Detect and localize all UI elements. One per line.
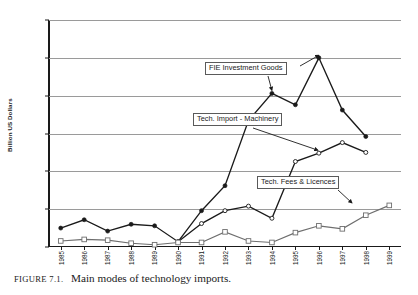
data-point-marker [82,237,87,242]
data-point-marker [246,239,251,244]
data-point-marker [153,224,157,228]
data-point-marker [106,229,110,233]
figure-number: FIGURE 7.1. [14,274,68,284]
x-tick-label: 1986 [81,251,88,265]
data-point-marker [270,91,274,95]
data-point-marker [129,222,133,226]
data-point-marker [340,141,344,145]
data-point-marker [246,204,250,208]
data-point-marker [317,151,321,155]
series-line [178,143,366,242]
data-point-marker [364,150,368,154]
series-line [61,58,366,242]
x-tick-label: 1994 [269,251,276,265]
x-tick-label: 1992 [222,251,229,265]
series-fie-investment-goods [59,56,368,244]
data-point-marker [387,203,392,208]
figure-title: Main modes of technology imports. [71,272,231,284]
y-axis-label: Billion US Dollars [2,60,16,190]
data-point-marker [364,213,369,218]
x-tick-label: 1987 [104,251,111,265]
data-point-marker [129,241,134,246]
x-tick-label: 1996 [316,251,323,265]
data-point-marker [176,240,181,245]
x-tick-label: 1997 [339,251,346,265]
data-point-marker [223,209,227,213]
x-tick-label: 1999 [386,251,393,265]
annotation-tech-fees-licences: Tech. Fees & Licences [257,176,339,189]
data-point-marker [152,242,157,247]
data-point-marker [270,240,275,245]
x-tick-label: 1998 [363,251,370,265]
data-point-marker [293,103,297,107]
x-tick-label: 1995 [292,251,299,265]
data-point-marker [364,135,368,139]
x-tick-label: 1989 [151,251,158,265]
figure-caption: FIGURE 7.1. Main modes of technology imp… [14,272,231,284]
plot-area: 051015202530 198519861987198819891990199… [49,20,401,246]
x-tick-label: 1991 [198,251,205,265]
data-point-marker [340,108,344,112]
x-tick-label: 1990 [175,251,182,265]
annotation-fie-investment-goods: FIE Investment Goods [205,62,287,75]
data-point-marker [317,224,322,229]
data-point-marker [82,218,86,222]
x-tick-label: 1985 [58,251,65,265]
data-point-marker [223,230,228,235]
data-point-marker [317,56,321,60]
annotation-tech-import-machinery: Tech. Import - Machinery [193,113,282,126]
x-tick-label: 1988 [128,251,135,265]
data-point-marker [200,209,204,213]
data-point-marker [200,222,204,226]
figure-container: Billion US Dollars 051015202530 19851986… [0,0,418,295]
x-tick-label: 1993 [245,251,252,265]
chart-area: Billion US Dollars 051015202530 19851986… [0,0,418,268]
series-layer [49,20,401,247]
data-point-marker [270,216,274,220]
data-point-marker [293,160,297,164]
data-point-marker [199,240,204,245]
data-point-marker [59,226,63,230]
data-point-marker [223,184,227,188]
data-point-marker [105,238,110,243]
data-point-marker [293,230,298,235]
data-point-marker [340,227,345,232]
data-point-marker [58,239,63,244]
